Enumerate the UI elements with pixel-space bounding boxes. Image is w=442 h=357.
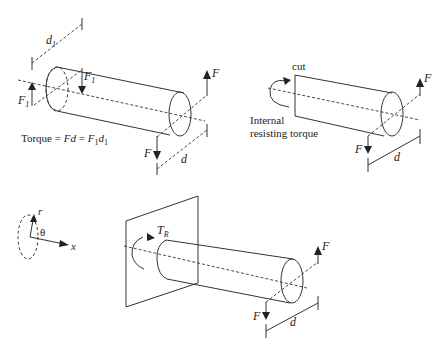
wall-plane (126, 196, 198, 307)
internal-label: Internal (250, 114, 284, 126)
F-up-label-b: F (423, 71, 432, 85)
d-label-d: d (290, 315, 297, 329)
F-down-label-d: F (252, 309, 261, 323)
resisting-torque-label: resisting torque (250, 127, 318, 139)
F-up-label-d: F (321, 239, 330, 253)
force-F-up-a: F (203, 66, 220, 96)
torque-equation: Torque = Fd = F1d1 (21, 132, 108, 147)
F1-left-label: F1 (17, 93, 29, 109)
F-down-label: F (143, 146, 152, 160)
d1-dimension: d1 (32, 18, 82, 70)
torsion-diagram: d1 F1 F1 F (0, 0, 442, 357)
cut-label: cut (292, 60, 305, 72)
force-F-up-d: F (314, 239, 330, 264)
force-F1-left: F1 (17, 82, 36, 109)
d-dimension-a: d (157, 124, 207, 175)
panel-b-cut-section: cut Internal resisting torque F F d (250, 60, 432, 172)
shaft-axis-d (124, 246, 307, 288)
panel-d-fixed-wall: TR F F d (124, 196, 330, 338)
panel-c-coordinate-system: r x θ (18, 205, 76, 259)
F1-top-label: F1 (83, 69, 95, 85)
cylinder-a (46, 67, 191, 136)
force-F-down-a: F (143, 136, 161, 160)
force-F-down-d: F (252, 302, 270, 323)
TR-label: TR (157, 223, 169, 239)
force-F-up-b: F (416, 71, 432, 96)
reaction-torque-arrow (132, 233, 155, 269)
force-F-down-b: F (354, 136, 372, 156)
d-label-b: d (394, 150, 401, 164)
d-dimension-d: d (266, 296, 318, 338)
d-label: d (181, 152, 188, 166)
cylinder-d (157, 240, 303, 303)
panel-a-shaft-two-couples: d1 F1 F1 F (17, 18, 220, 175)
d1-label: d1 (46, 33, 56, 49)
r-label: r (38, 205, 43, 217)
shaft-axis-b (268, 88, 420, 120)
theta-label: θ (40, 226, 45, 238)
x-label: x (70, 240, 76, 252)
F-up-label: F (211, 66, 220, 80)
F-down-label-b: F (354, 142, 363, 156)
